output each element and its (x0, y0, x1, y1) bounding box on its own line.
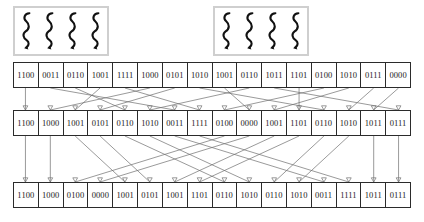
squiggle-icon (290, 11, 302, 51)
register-cell: 1111 (337, 183, 362, 207)
right-squiggle-group (215, 8, 307, 54)
register-cell: 1100 (14, 183, 39, 207)
permutation-wire (274, 88, 398, 110)
register-cell: 1010 (287, 183, 312, 207)
register-cell: 0000 (386, 63, 410, 87)
register-cell: 1001 (113, 183, 138, 207)
permutation-wire (75, 88, 100, 110)
register-cell: 0011 (312, 183, 337, 207)
register-cell: 1111 (113, 63, 138, 87)
permutation-wire (274, 88, 349, 110)
register-cell: 1111 (188, 111, 213, 135)
squiggle-icon (21, 11, 33, 51)
register-cell: 1010 (337, 111, 362, 135)
register-cell: 1101 (287, 63, 312, 87)
permutation-wire (125, 136, 225, 182)
permutation-wire (299, 136, 349, 182)
register-cell: 1011 (262, 63, 287, 87)
register-cell: 0110 (262, 183, 287, 207)
permutation-wire (75, 136, 224, 182)
register-cell: 0111 (386, 183, 410, 207)
permutation-wire (50, 88, 174, 110)
permutation-wire (200, 136, 300, 182)
register-cell: 1010 (188, 63, 213, 87)
permutation-wire (100, 88, 175, 110)
permutation-wire (150, 88, 250, 110)
permutation-wire (50, 88, 150, 110)
register-cell: 0100 (312, 63, 337, 87)
register-cell: 0110 (64, 63, 89, 87)
row-top: 1100001101101001111110000101101010010110… (13, 62, 411, 88)
right-squiggle-box (213, 6, 309, 56)
register-cell: 1011 (361, 183, 386, 207)
permutation-wire (224, 88, 324, 110)
register-cell: 1001 (88, 63, 113, 87)
register-cell: 0110 (213, 183, 238, 207)
register-cell: 1001 (262, 111, 287, 135)
register-cell: 0110 (113, 111, 138, 135)
register-cell: 1010 (337, 63, 362, 87)
permutation-wire (100, 136, 150, 182)
row-middle: 1100100010010101011010100011111101000000… (13, 110, 411, 136)
permutation-wire (75, 88, 125, 110)
permutation-wire (200, 136, 349, 182)
register-cell: 1100 (14, 111, 39, 135)
register-cell: 0110 (237, 63, 262, 87)
permutation-wire (100, 136, 249, 182)
register-cell: 0101 (163, 63, 188, 87)
permutation-wire (150, 136, 250, 182)
register-cell: 0011 (39, 63, 64, 87)
register-cell: 1001 (163, 183, 188, 207)
permutation-wire (175, 136, 324, 182)
register-cell: 1001 (64, 111, 89, 135)
permutation-wire (125, 88, 200, 110)
squiggle-icon (244, 11, 256, 51)
register-cell: 1011 (361, 111, 386, 135)
squiggle-icon (67, 11, 79, 51)
permutation-wire (175, 136, 275, 182)
register-cell: 0101 (88, 111, 113, 135)
permutation-wire (349, 88, 374, 110)
left-squiggle-box (13, 6, 109, 56)
register-cell: 1000 (138, 63, 163, 87)
permutation-wire (75, 136, 125, 182)
permutation-wire (224, 88, 249, 110)
register-cell: 1101 (287, 111, 312, 135)
permutation-wire (274, 136, 324, 182)
register-cell: 1100 (14, 63, 39, 87)
squiggle-icon (44, 11, 56, 51)
register-cell: 1000 (39, 183, 64, 207)
squiggle-icon (267, 11, 279, 51)
permutation-wire (200, 88, 324, 110)
register-cell: 0111 (386, 111, 410, 135)
register-cell: 0011 (163, 111, 188, 135)
register-cell: 0100 (64, 183, 89, 207)
diagram-canvas: 1100001101101001111110000101101010010110… (0, 0, 424, 222)
register-cell: 0110 (312, 111, 337, 135)
register-cell: 1101 (188, 183, 213, 207)
register-cell: 0000 (237, 111, 262, 135)
row-bottom: 1100100001000000100101011001110101101010… (13, 182, 411, 208)
permutation-wire (374, 88, 399, 110)
register-cell: 0111 (361, 63, 386, 87)
register-cell: 0100 (213, 111, 238, 135)
register-cell: 0000 (88, 183, 113, 207)
register-cell: 0101 (138, 183, 163, 207)
register-cell: 1010 (138, 111, 163, 135)
register-cell: 1010 (237, 183, 262, 207)
register-cell: 1000 (39, 111, 64, 135)
left-squiggle-group (15, 8, 107, 54)
register-cell: 1001 (213, 63, 238, 87)
squiggle-icon (90, 11, 102, 51)
squiggle-icon (221, 11, 233, 51)
